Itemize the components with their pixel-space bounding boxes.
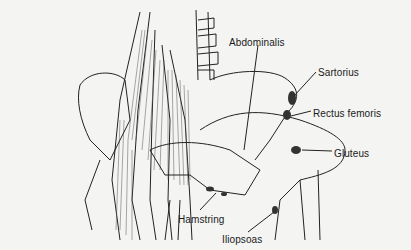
label-gluteus: Gluteus [334,148,369,159]
label-rectus-femoris: Rectus femoris [313,108,381,119]
pelvis-illustration [0,0,411,250]
label-abdominalis: Abdominalis [229,37,285,48]
anatomy-diagram: Abdominalis Sartorius Rectus femoris Glu… [0,0,411,250]
label-sartorius: Sartorius [318,67,359,78]
label-hamstring: Hamstring [178,214,224,225]
label-iliopsoas: Iliopsoas [222,234,262,245]
